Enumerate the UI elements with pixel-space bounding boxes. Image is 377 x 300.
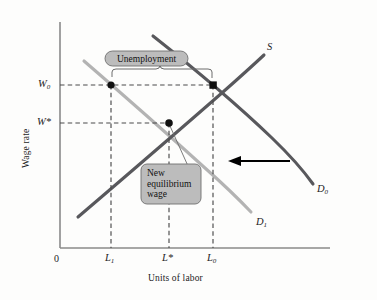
x-tick-lstar-main: L*	[162, 252, 173, 263]
axes-group	[60, 22, 330, 248]
new-equilibrium-callout-label: New equilibrium wage	[147, 168, 201, 200]
new-equilibrium-line-2: equilibrium	[147, 179, 201, 190]
curve-d1-sub: 1	[264, 221, 268, 229]
curve-d0-main: D	[317, 183, 325, 194]
x-tick-label-l1: L1	[105, 253, 114, 264]
curve-s-main: S	[267, 41, 272, 52]
x-tick-l0-sub: 0	[213, 257, 217, 265]
x-tick-l0-main: L	[207, 252, 213, 263]
y-tick-label-w0: W0	[38, 79, 50, 90]
shift-arrow	[228, 156, 290, 166]
labor-market-diagram: Wage rate Units of labor 0 W0 W* L1 L* L…	[0, 0, 377, 300]
y-tick-wstar-main: W*	[37, 116, 51, 127]
curve-d0-sub: 0	[325, 188, 329, 196]
new-equilibrium-line-1: New	[147, 168, 201, 179]
x-tick-l1-main: L	[105, 252, 111, 263]
x-axis-title: Units of labor	[148, 274, 203, 284]
point-w0-l0	[209, 81, 216, 88]
curve-d1-main: D	[256, 216, 264, 227]
curve-label-d0: D0	[317, 184, 328, 195]
y-tick-w0-sub: 0	[47, 83, 51, 91]
new-equilibrium-line-3: wage	[147, 189, 201, 200]
x-tick-label-lstar: L*	[162, 253, 173, 264]
y-axis-title: Wage rate	[22, 129, 32, 168]
curve-label-s: S	[267, 42, 272, 53]
y-tick-w0-main: W	[38, 78, 47, 89]
shift-arrow-head	[228, 156, 241, 166]
point-wstar-lstar	[165, 119, 173, 127]
point-w0-l1	[107, 81, 114, 88]
x-tick-l1-sub: 1	[111, 257, 115, 265]
y-tick-label-wstar: W*	[37, 117, 51, 128]
origin-label: 0	[54, 254, 59, 264]
x-tick-label-l0: L0	[207, 253, 216, 264]
unemployment-callout-label: Unemployment	[105, 54, 188, 65]
curve-label-d1: D1	[256, 217, 267, 228]
